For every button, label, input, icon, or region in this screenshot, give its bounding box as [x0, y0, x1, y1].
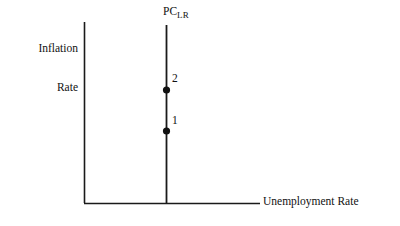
y-axis-label: Inflation Rate [8, 16, 78, 120]
y-axis-label-line-1: Inflation [8, 42, 78, 55]
curve-label-base: PC [163, 5, 177, 17]
y-axis-label-line-2: Rate [8, 81, 78, 94]
data-point-label-1: 1 [172, 114, 178, 126]
phillips-curve-figure: Inflation Rate Unemployment Rate PCLR 2 … [0, 0, 400, 226]
curve-label-pc-lr: PCLR [163, 5, 189, 20]
data-point-marker-1 [163, 127, 170, 134]
curve-label-subscript: LR [177, 10, 189, 20]
data-point-marker-2 [163, 86, 170, 93]
x-axis-label: Unemployment Rate [263, 195, 359, 208]
data-point-label-2: 2 [172, 72, 178, 84]
